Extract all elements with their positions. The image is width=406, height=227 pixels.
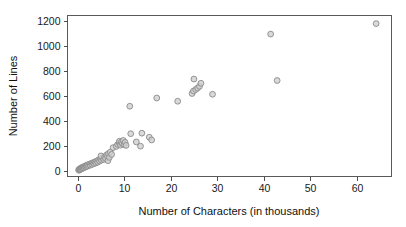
data-point (274, 78, 280, 84)
data-point (127, 103, 133, 109)
y-tick-label-800: 800 (43, 65, 61, 77)
y-tick-label-400: 400 (43, 115, 61, 127)
y-axis-title: Number of Lines (7, 55, 19, 136)
data-point (139, 130, 145, 136)
data-point (175, 98, 181, 104)
x-tick-label-20: 20 (166, 182, 178, 194)
data-point (198, 80, 204, 86)
y-tick-label-600: 600 (43, 90, 61, 102)
y-tick-label-1000: 1000 (37, 40, 61, 52)
data-point (191, 76, 197, 82)
data-point (109, 152, 115, 158)
x-tick-label-0: 0 (76, 182, 82, 194)
scatter-chart-figure: 0102030405060 020040060080010001200 Numb… (0, 0, 406, 227)
x-tick-label-10: 10 (119, 182, 131, 194)
x-tick-label-60: 60 (352, 182, 364, 194)
chart-canvas: 0102030405060 020040060080010001200 Numb… (0, 0, 406, 227)
data-point (210, 91, 216, 97)
data-point (123, 143, 129, 149)
y-tick-label-200: 200 (43, 140, 61, 152)
chart-background (0, 0, 406, 227)
data-point (154, 95, 160, 101)
x-axis-title: Number of Characters (in thousands) (139, 205, 320, 217)
y-tick-label-0: 0 (55, 165, 61, 177)
data-point (149, 137, 155, 143)
data-point (128, 131, 134, 137)
x-tick-label-40: 40 (259, 182, 271, 194)
data-point (268, 31, 274, 37)
x-tick-label-50: 50 (305, 182, 317, 194)
y-tick-label-1200: 1200 (37, 15, 61, 27)
x-tick-label-30: 30 (212, 182, 224, 194)
data-point (373, 21, 379, 27)
data-point (138, 143, 144, 149)
